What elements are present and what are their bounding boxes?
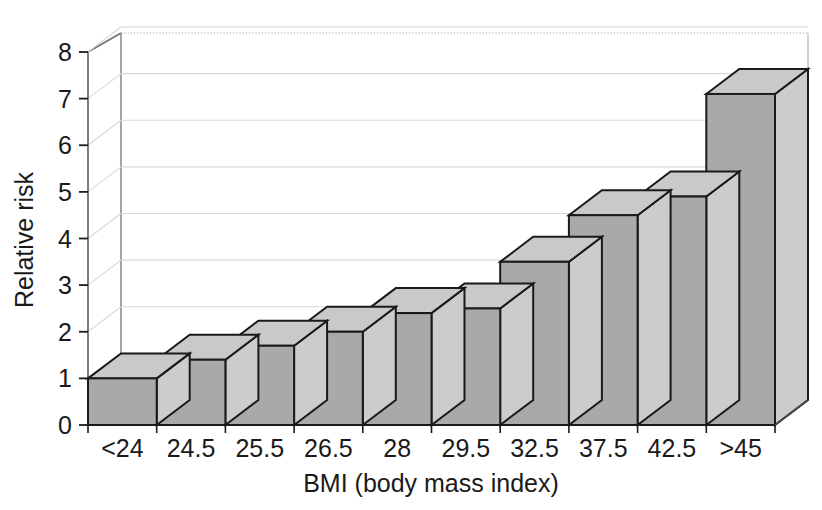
bar-side-face-8 <box>706 172 739 425</box>
bar-side-face-7 <box>638 190 671 425</box>
y-tick-label-8: 8 <box>58 38 72 66</box>
x-tick-label-3: 26.5 <box>304 434 353 462</box>
y-tick-label-0: 0 <box>58 411 72 439</box>
y-tick-label-2: 2 <box>58 318 72 346</box>
x-tick-label-1: 24.5 <box>167 434 216 462</box>
y-tick-label-4: 4 <box>58 225 72 253</box>
y-tick-label-3: 3 <box>58 271 72 299</box>
y-tick-label-6: 6 <box>58 131 72 159</box>
y-axis-title: Relative risk <box>10 171 38 308</box>
bar-side-face-6 <box>569 237 602 425</box>
x-tick-label-9: >45 <box>719 434 761 462</box>
x-tick-label-0: <24 <box>101 434 144 462</box>
x-tick-label-7: 37.5 <box>579 434 628 462</box>
y-tick-label-5: 5 <box>58 178 72 206</box>
x-tick-label-8: 42.5 <box>648 434 697 462</box>
y-axis-ticks: 012345678 <box>58 38 88 439</box>
bar-side-face-9 <box>775 69 808 425</box>
x-tick-label-2: 25.5 <box>235 434 284 462</box>
x-tick-label-6: 32.5 <box>510 434 559 462</box>
y-tick-label-1: 1 <box>58 364 72 392</box>
chart-canvas: 012345678 <2424.525.526.52829.532.537.54… <box>0 0 822 510</box>
x-tick-label-5: 29.5 <box>442 434 491 462</box>
x-axis-title: BMI (body mass index) <box>303 469 559 497</box>
x-axis-ticks: <2424.525.526.52829.532.537.542.5>45 <box>88 425 775 462</box>
x-tick-label-4: 28 <box>383 434 411 462</box>
y-tick-label-7: 7 <box>58 85 72 113</box>
bar-front-face-0 <box>88 378 157 425</box>
relative-risk-bmi-bar-chart: 012345678 <2424.525.526.52829.532.537.54… <box>0 0 822 510</box>
